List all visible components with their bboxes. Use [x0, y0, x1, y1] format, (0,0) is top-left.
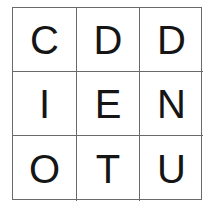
grid-cell-r2c2: E	[77, 72, 140, 136]
letter-grid: C D D I E N O T U	[12, 7, 202, 200]
grid-cell-r1c2: D	[77, 8, 140, 72]
grid-cell-r3c1: O	[13, 136, 77, 201]
grid-cell-r1c3: D	[140, 8, 203, 72]
grid-cell-r1c1: C	[13, 8, 77, 72]
grid-cell-r3c2: T	[77, 136, 140, 201]
grid-cell-r2c3: N	[140, 72, 203, 136]
grid-cell-r3c3: U	[140, 136, 203, 201]
grid-cell-r2c1: I	[13, 72, 77, 136]
